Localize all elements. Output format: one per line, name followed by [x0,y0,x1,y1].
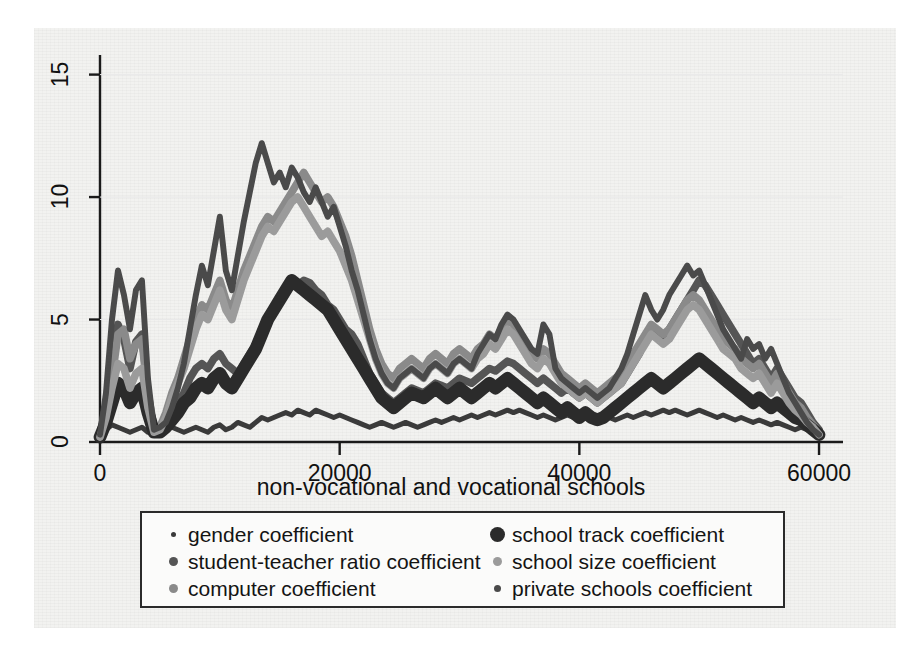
legend-item-label: school track coefficient [512,524,724,545]
legend-item: student-teacher ratio coefficient [158,548,481,575]
legend-item: school size coefficient [482,548,752,575]
y-tick-label: 5 [47,297,74,341]
legend-marker-wrap [482,585,512,592]
legend-item-label: computer coefficient [188,578,376,599]
data-series-group [100,143,819,437]
legend-item-label: gender coefficient [188,524,353,545]
y-tick-label: 10 [47,175,74,219]
legend-marker-wrap [482,557,512,566]
y-tick-label: 0 [47,420,74,464]
legend-item-label: school size coefficient [512,551,716,572]
legend-item-label: student-teacher ratio coefficient [188,551,481,572]
figure-container: 051015 0200004000060000 non-vocational a… [0,0,902,661]
legend-marker-dot-icon [494,585,501,592]
legend-item: computer coefficient [158,575,481,602]
legend-marker-dot-icon [169,557,178,566]
legend-marker-dot-icon [169,584,178,593]
legend-marker-dot-icon [490,527,505,542]
legend-item-label: private schools coefficient [512,578,752,599]
legend-marker-dot-icon [493,557,502,566]
legend-marker-wrap [158,532,188,537]
legend-item: school track coefficient [482,521,752,548]
legend-column-left: gender coefficientstudent-teacher ratio … [158,521,481,602]
y-tick-label: 15 [47,52,74,96]
chart-legend: gender coefficientstudent-teacher ratio … [140,511,785,608]
legend-marker-dot-icon [171,532,176,537]
legend-item: gender coefficient [158,521,481,548]
legend-marker-wrap [482,527,512,542]
series-line [100,410,819,437]
legend-marker-wrap [158,557,188,566]
legend-item: private schools coefficient [482,575,752,602]
x-axis-title: non-vocational and vocational schools [0,474,902,501]
legend-column-right: school track coefficientschool size coef… [482,521,752,602]
legend-marker-wrap [158,584,188,593]
